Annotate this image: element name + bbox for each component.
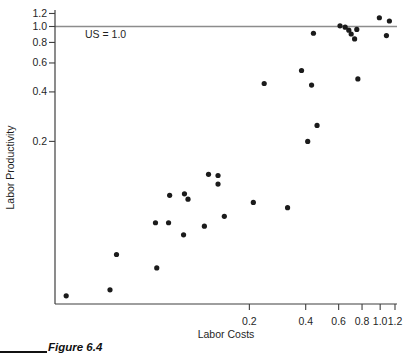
reference-line-label: US = 1.0 bbox=[85, 28, 126, 40]
scatter-point bbox=[166, 220, 171, 225]
y-tick-label: 1.2 bbox=[32, 7, 47, 19]
scatter-point bbox=[384, 33, 389, 38]
y-axis-label: Labor Productivity bbox=[4, 108, 17, 228]
scatter-point bbox=[349, 31, 354, 36]
scatter-point bbox=[153, 220, 158, 225]
x-tick-label: 0.4 bbox=[298, 315, 313, 327]
scatter-point bbox=[352, 36, 357, 41]
scatter-point bbox=[182, 191, 187, 196]
scatter-point bbox=[185, 197, 190, 202]
x-tick-label: 1.2 bbox=[388, 315, 403, 327]
scatter-point bbox=[154, 265, 159, 270]
scatter-point bbox=[251, 200, 256, 205]
figure-6-4-scatter-chart: 0.20.40.60.81.01.21.21.00.80.60.40.2 US … bbox=[0, 0, 418, 358]
scatter-point bbox=[181, 232, 186, 237]
scatter-point bbox=[167, 193, 172, 198]
chart-canvas: 0.20.40.60.81.01.21.21.00.80.60.40.2 bbox=[0, 0, 418, 358]
scatter-point bbox=[285, 205, 290, 210]
x-axis-label: Labor Costs bbox=[55, 328, 397, 340]
scatter-point bbox=[355, 76, 360, 81]
scatter-point bbox=[107, 287, 112, 292]
y-tick-label: 1.0 bbox=[32, 20, 47, 32]
x-tick-label: 1.0 bbox=[373, 315, 388, 327]
scatter-point bbox=[311, 31, 316, 36]
scatter-point bbox=[222, 214, 227, 219]
scatter-point bbox=[206, 172, 211, 177]
scatter-point bbox=[64, 293, 69, 298]
scatter-point bbox=[114, 252, 119, 257]
scatter-point bbox=[337, 23, 342, 28]
y-tick-label: 0.4 bbox=[32, 85, 47, 97]
scatter-point bbox=[387, 18, 392, 23]
y-tick-label: 0.8 bbox=[32, 36, 47, 48]
scatter-point bbox=[354, 27, 359, 32]
scatter-point bbox=[215, 173, 220, 178]
scatter-point bbox=[377, 15, 382, 20]
scatter-point bbox=[262, 81, 267, 86]
scatter-point bbox=[314, 123, 319, 128]
x-tick-label: 0.8 bbox=[355, 315, 370, 327]
scatter-point bbox=[202, 224, 207, 229]
scatter-point bbox=[215, 181, 220, 186]
figure-caption: Figure 6.4 bbox=[48, 341, 102, 353]
scatter-point bbox=[309, 83, 314, 88]
scatter-point bbox=[305, 139, 310, 144]
x-tick-label: 0.2 bbox=[242, 315, 257, 327]
x-tick-label: 0.6 bbox=[331, 315, 346, 327]
y-tick-label: 0.2 bbox=[32, 135, 47, 147]
y-tick-label: 0.6 bbox=[32, 56, 47, 68]
caption-rule bbox=[0, 351, 47, 353]
scatter-point bbox=[299, 68, 304, 73]
